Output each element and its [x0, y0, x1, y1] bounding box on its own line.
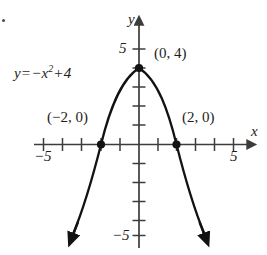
label-left-intercept-point: (−2, 0): [47, 110, 88, 125]
graph-canvas: [0, 0, 267, 255]
equation-lhs: y: [14, 65, 21, 81]
parabola-figure: y x −5 5 5 −5 (0, 4) (−2, 0) (2, 0) y=−x…: [0, 0, 267, 255]
y-axis-name: y: [128, 12, 135, 27]
x-tick-label-5: 5: [230, 149, 238, 164]
x-axis: [34, 138, 248, 151]
x-tick-label-minus-5: −5: [34, 149, 52, 164]
equation-constant: 4: [64, 65, 72, 81]
point-left-intercept: [97, 140, 105, 148]
label-vertex-point: (0, 4): [154, 46, 187, 61]
x-axis-name: x: [251, 124, 258, 139]
point-right-intercept: [172, 140, 180, 148]
equation-label: y=−x2+4: [14, 66, 71, 81]
y-tick-label-minus-5: −5: [112, 228, 130, 243]
y-tick-label-5: 5: [119, 41, 127, 56]
y-axis: [133, 24, 146, 248]
equation-plus: +: [53, 65, 63, 81]
point-vertex: [135, 64, 143, 72]
equation-term-sign: −: [31, 65, 41, 81]
label-right-intercept-point: (2, 0): [182, 110, 215, 125]
equation-equals: =: [21, 65, 31, 81]
